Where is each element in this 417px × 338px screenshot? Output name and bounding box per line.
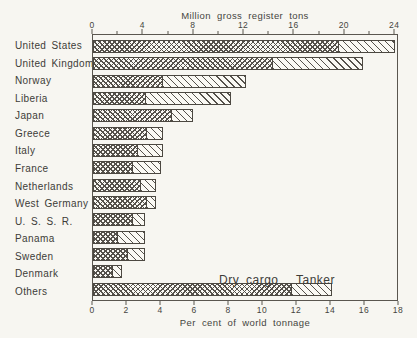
dry-cargo-segment — [93, 231, 118, 244]
stacked-bar — [93, 75, 397, 88]
tanker-segment — [162, 75, 246, 88]
bottom-axis-tick-label: 14 — [325, 305, 335, 315]
tanker-segment — [171, 109, 194, 122]
bottom-axis-tick-label: 2 — [123, 305, 128, 315]
bottom-axis-tick-label: 12 — [291, 305, 301, 315]
stacked-bar — [93, 127, 397, 140]
bottom-axis-tick-labels: 024681012141618 — [92, 305, 398, 315]
chart-row — [93, 142, 397, 159]
stacked-bar — [93, 40, 397, 53]
category-label: Denmark — [6, 265, 90, 283]
stacked-bar — [93, 144, 397, 157]
bottom-axis-tick-label: 10 — [257, 305, 267, 315]
category-label: United Kingdom — [6, 55, 90, 73]
bottom-axis-title: Per cent of world tonnage — [92, 317, 398, 328]
tanker-segment — [272, 57, 363, 70]
stacked-bar — [93, 109, 397, 122]
dry-cargo-segment — [93, 127, 147, 140]
bottom-axis-tick-label: 16 — [359, 305, 369, 315]
chart-row — [93, 246, 397, 263]
legend-label-tanker: Tanker — [296, 273, 335, 287]
dry-cargo-segment — [93, 161, 133, 174]
category-label: Sweden — [6, 247, 90, 265]
chart-row — [93, 177, 397, 194]
category-label: U. S. S. R. — [6, 212, 90, 230]
tanker-segment — [117, 231, 145, 244]
category-labels-column: United StatesUnited KingdomNorwayLiberia… — [6, 37, 90, 300]
chart-row — [93, 90, 397, 107]
bottom-axis-tick-label: 18 — [393, 305, 403, 315]
bottom-axis-tick-label: 0 — [89, 305, 94, 315]
chart-row — [93, 211, 397, 228]
category-label: Italy — [6, 142, 90, 160]
category-label: France — [6, 160, 90, 178]
stacked-bar — [93, 231, 397, 244]
category-label: West Germany — [6, 195, 90, 213]
stacked-bar — [93, 213, 397, 226]
tanker-segment — [132, 161, 161, 174]
bottom-axis-tick-label: 4 — [157, 305, 162, 315]
stacked-bar — [93, 57, 397, 70]
chart-row — [93, 229, 397, 246]
category-label: Greece — [6, 125, 90, 143]
stacked-bar — [93, 179, 397, 192]
tanker-segment — [137, 144, 163, 157]
dry-cargo-segment — [93, 57, 273, 70]
category-label: Norway — [6, 72, 90, 90]
bottom-axis-tick-label: 8 — [225, 305, 230, 315]
category-label: Liberia — [6, 90, 90, 108]
stacked-bar — [93, 161, 397, 174]
category-label: United States — [6, 37, 90, 55]
stacked-bar — [93, 248, 397, 261]
tanker-segment — [145, 92, 231, 105]
category-label: Netherlands — [6, 177, 90, 195]
dry-cargo-segment — [93, 75, 163, 88]
dry-cargo-segment — [93, 40, 339, 53]
dry-cargo-segment — [93, 265, 113, 278]
dry-cargo-segment — [93, 248, 128, 261]
category-label: Others — [6, 282, 90, 300]
tanker-segment — [140, 179, 156, 192]
tanker-segment — [338, 40, 394, 53]
category-label: Japan — [6, 107, 90, 125]
chart-row — [93, 73, 397, 90]
dry-cargo-segment — [93, 179, 141, 192]
chart-row — [93, 194, 397, 211]
tanker-segment — [146, 127, 164, 140]
stacked-bar — [93, 92, 397, 105]
chart-row — [93, 107, 397, 124]
chart-row — [93, 38, 397, 55]
dry-cargo-segment — [93, 92, 146, 105]
chart-row — [93, 55, 397, 72]
tanker-segment — [132, 213, 145, 226]
dry-cargo-segment — [93, 144, 138, 157]
bar-rows — [93, 38, 397, 298]
plot-area — [92, 34, 398, 301]
category-label: Panama — [6, 230, 90, 248]
dry-cargo-segment — [93, 213, 133, 226]
legend-label-dry-cargo: Dry cargo — [219, 273, 279, 287]
tanker-segment — [146, 196, 156, 209]
stacked-bar — [93, 196, 397, 209]
dry-cargo-segment — [93, 109, 172, 122]
dry-cargo-segment — [93, 196, 147, 209]
bottom-axis-tick-label: 6 — [191, 305, 196, 315]
shipping-tonnage-figure: Million gross register tons 04812162024 … — [0, 0, 417, 338]
chart-row — [93, 125, 397, 142]
chart-row — [93, 159, 397, 176]
tanker-segment — [112, 265, 122, 278]
tanker-segment — [127, 248, 145, 261]
